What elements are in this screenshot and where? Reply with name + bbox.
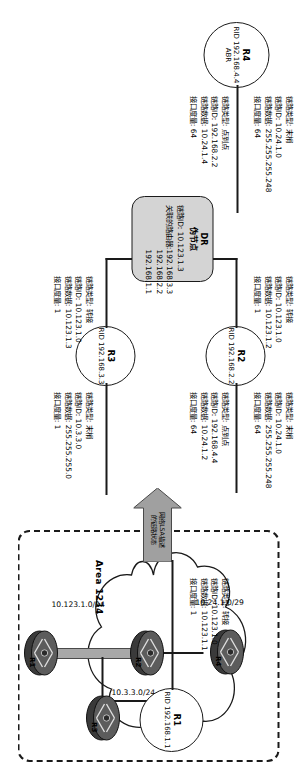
r4-p2p-metric: 64	[188, 129, 197, 138]
label-link-data: 链路数据:	[263, 276, 272, 307]
lsa-node-r3-rid: RID 192.168.3.3	[95, 328, 104, 385]
link-block-r3-stub: 链路类型: 末梢 链路ID: 10.3.3.0 链路数据: 255.255.25…	[50, 392, 93, 479]
r4-p2p-id: 192.168.2.2	[209, 123, 218, 168]
dr-pseudonode-title-line2: 伪节点	[187, 205, 197, 273]
r2-stub-type: 末梢	[284, 425, 293, 439]
r4-stub-data: 255.255.255.248	[263, 129, 272, 192]
area-router-r3-icon	[79, 694, 123, 742]
link-block-r4-p2p: 链路类型: 点到点 链路ID: 192.168.2.2 链路数据: 10.24.…	[186, 96, 229, 167]
link-block-r3-transit: 链路类型: 转接 链路ID: 10.123.1.0 链路数据: 10.123.1…	[50, 276, 93, 349]
r3-stub-type: 末梢	[84, 425, 93, 439]
lsa-stem-r3-right	[105, 383, 107, 495]
r4-p2p-type-row: 链路类型: 点到点	[218, 96, 229, 167]
link-block-r1-transit: 链路类型: 转接 链路ID: 10.123.1.0 链路数据: 10.123.1…	[186, 578, 229, 651]
label-link-type: 链路类型:	[284, 392, 293, 423]
label-metric: 接口度量:	[188, 96, 197, 127]
r3-stub-metric-row: 接口度量: 1	[50, 392, 61, 479]
lsa-node-r4-rid: RID 192.168.4.4	[231, 27, 240, 84]
r2-p2p-metric: 64	[188, 425, 197, 434]
r4-p2p-data: 10.24.1.4	[199, 129, 208, 164]
r2-transit-metric-row: 接口度量: 1	[250, 276, 261, 349]
r1-transit-id: 10.123.1.0	[209, 605, 218, 645]
r2-transit-id-row: 链路ID: 10.123.1.0	[272, 276, 283, 349]
dr-link-id-value: 10.123.1.3	[175, 232, 184, 272]
r2-transit-data-row: 链路数据: 10.123.1.2	[261, 276, 272, 349]
r4-p2p-type: 点到点	[220, 129, 229, 150]
label-link-type: 链路类型:	[220, 578, 229, 609]
label-link-type: 链路类型:	[284, 276, 293, 307]
lsa-node-r4-name: R4	[239, 49, 250, 62]
lsa-node-r1-name: R1	[170, 714, 181, 727]
r3-stub-id: 10.3.3.0	[73, 419, 82, 450]
dr-assoc-list: 192.168.3.3 192.168.2.2 192.168.1.1	[141, 250, 173, 295]
area-router-r3-label: R3	[89, 722, 97, 732]
label-link-data: 链路数据:	[63, 392, 72, 423]
label-metric: 接口度量:	[188, 578, 197, 609]
r4-stub-metric: 64	[252, 129, 261, 138]
lsa-node-r4-role: ABR	[222, 48, 231, 62]
lsa-node-r3-name: R3	[104, 350, 115, 363]
arrow-label-line1: 网络LSA描述	[157, 512, 165, 548]
r2-p2p-metric-row: 接口度量: 64	[186, 392, 197, 463]
r2-transit-type: 转接	[284, 309, 293, 323]
lsa-node-r2-name: R2	[234, 350, 245, 363]
r4-p2p-id-row: 链路ID: 192.168.2.2	[208, 96, 219, 167]
label-link-data: 链路数据:	[263, 392, 272, 423]
area-router-r4-label: R4	[213, 656, 221, 666]
r3-transit-id: 10.123.1.0	[73, 303, 82, 343]
label-link-data: 链路数据:	[199, 392, 208, 423]
r1-transit-type-row: 链路类型: 转接	[218, 578, 229, 651]
network-lsa-arrow: 网络LSA描述 的链路状态	[133, 488, 181, 562]
label-link-id: 链路ID:	[273, 96, 282, 120]
lsa-stem-r2-right	[235, 383, 237, 493]
label-link-type: 链路类型:	[220, 96, 229, 127]
r3-transit-metric-row: 接口度量: 1	[50, 276, 61, 349]
dr-pseudonode-body: 链路ID: 10.123.1.3 关联的路由器: 192.168.3.3 192…	[141, 205, 184, 273]
lsa-node-r1-rid: RID 192.168.1.1	[161, 692, 170, 749]
r2-stub-metric-row: 接口度量: 64	[250, 392, 261, 488]
r2-transit-type-row: 链路类型: 转接	[282, 276, 293, 349]
r2-stub-data-row: 链路数据: 255.255.255.248	[261, 392, 272, 488]
label-link-type: 链路类型:	[84, 392, 93, 423]
dr-pseudonode-title-line1: DR	[197, 205, 207, 273]
r1-transit-metric: 1	[188, 611, 197, 616]
r2-p2p-data-row: 链路数据: 10.24.1.2	[197, 392, 208, 463]
lsa-stem-r1	[171, 560, 173, 690]
label-metric: 接口度量:	[252, 96, 261, 127]
dr-assoc-router-2: 192.168.2.2	[152, 250, 163, 295]
dr-pseudonode-box[interactable]: DR 伪节点 链路ID: 10.123.1.3 关联的路由器: 192.168.…	[131, 196, 213, 282]
r1-transit-id-row: 链路ID: 10.123.1.0	[208, 578, 219, 651]
r2-transit-id: 10.123.1.0	[273, 303, 282, 343]
lsa-node-r4[interactable]: R4 RID 192.168.4.4 ABR	[203, 22, 269, 88]
label-metric: 接口度量:	[188, 392, 197, 423]
r2-stub-data: 255.255.255.248	[263, 425, 272, 488]
r2-stub-id: 10.24.1.0	[273, 419, 282, 454]
r2-p2p-id: 192.168.4.4	[209, 419, 218, 464]
label-link-data: 链路数据:	[199, 578, 208, 609]
label-metric: 接口度量:	[252, 276, 261, 307]
label-link-id: 链路ID:	[209, 96, 218, 120]
r3-stub-data: 255.255.255.0	[63, 425, 72, 479]
r3-transit-data-row: 链路数据: 10.123.1.3	[61, 276, 72, 349]
dr-assoc-row: 关联的路由器: 192.168.3.3 192.168.2.2 192.168.…	[141, 205, 173, 273]
dr-link-id-row: 链路ID: 10.123.1.3	[173, 205, 184, 273]
lsa-stem-r2-left	[235, 258, 237, 328]
r2-stub-id-row: 链路ID: 10.24.1.0	[272, 392, 283, 488]
network-diagram-canvas: Area 1234 R4 R2 R3 R1 10.24.1.0/29 10.3.…	[0, 0, 299, 778]
network-label-10-123-1-0: 10.123.1.0/24	[51, 600, 104, 609]
r3-transit-type: 转接	[84, 309, 93, 323]
r3-transit-id-row: 链路ID: 10.123.1.0	[72, 276, 83, 349]
label-link-id: 链路ID:	[273, 392, 282, 416]
r4-p2p-metric-row: 接口度量: 64	[186, 96, 197, 167]
link-block-r4-stub: 链路类型: 末梢 链路ID: 10.24.1.0 链路数据: 255.255.2…	[250, 96, 293, 192]
r4-stub-data-row: 链路数据: 255.255.255.248	[261, 96, 272, 192]
link-block-r2-stub: 链路类型: 末梢 链路ID: 10.24.1.0 链路数据: 255.255.2…	[250, 392, 293, 488]
arrow-label: 网络LSA描述 的链路状态	[149, 512, 165, 548]
r3-stub-metric: 1	[52, 425, 61, 430]
lsa-node-r1[interactable]: R1 RID 192.168.1.1	[139, 688, 203, 752]
r2-p2p-type: 点到点	[220, 425, 229, 446]
label-metric: 接口度量:	[52, 392, 61, 423]
dr-assoc-label: 关联的路由器:	[163, 205, 174, 250]
r2-stub-type-row: 链路类型: 末梢	[282, 392, 293, 488]
r3-stub-type-row: 链路类型: 末梢	[82, 392, 93, 479]
